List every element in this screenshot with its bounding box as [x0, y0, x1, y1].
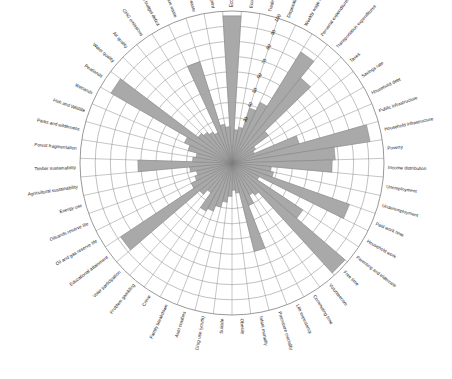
polar-chart-figure: 30405060708090100 Economic growthEconomi… [0, 0, 452, 379]
category-label: Economic growth [229, 0, 234, 7]
radar-chart-svg: 30405060708090100 Economic growthEconomi… [0, 0, 452, 379]
category-label: Suicide [219, 318, 225, 334]
category-label: Obesity [239, 319, 245, 336]
